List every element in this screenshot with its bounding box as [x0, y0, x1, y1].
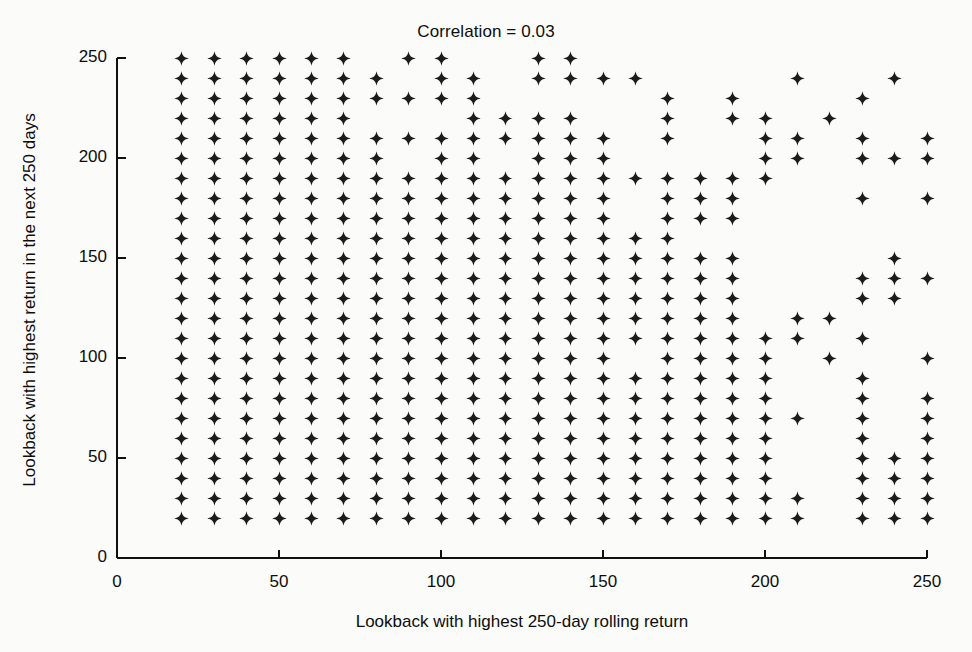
scatter-point — [272, 491, 287, 506]
scatter-point — [272, 451, 287, 466]
scatter-point — [693, 211, 708, 226]
scatter-point — [369, 71, 384, 86]
scatter-point — [401, 251, 416, 266]
scatter-point — [887, 511, 902, 526]
scatter-point — [596, 71, 611, 86]
scatter-point — [466, 331, 481, 346]
scatter-point — [401, 191, 416, 206]
scatter-point — [628, 431, 643, 446]
scatter-point — [239, 71, 254, 86]
scatter-point — [790, 331, 805, 346]
scatter-point — [304, 71, 319, 86]
scatter-point — [174, 511, 189, 526]
scatter-point — [758, 391, 773, 406]
scatter-point — [790, 71, 805, 86]
scatter-point — [272, 171, 287, 186]
scatter-point — [434, 171, 449, 186]
scatter-point — [207, 71, 222, 86]
scatter-point — [855, 431, 870, 446]
scatter-point — [563, 431, 578, 446]
scatter-point — [304, 471, 319, 486]
scatter-point — [434, 331, 449, 346]
y-tick-label: 100 — [59, 347, 107, 367]
scatter-point — [369, 131, 384, 146]
scatter-point — [401, 471, 416, 486]
scatter-point — [531, 291, 546, 306]
scatter-point — [660, 351, 675, 366]
scatter-point — [855, 331, 870, 346]
scatter-point — [239, 271, 254, 286]
scatter-point — [693, 371, 708, 386]
scatter-point — [174, 191, 189, 206]
scatter-point — [174, 491, 189, 506]
scatter-point — [563, 211, 578, 226]
scatter-point — [239, 351, 254, 366]
scatter-point — [304, 191, 319, 206]
scatter-point — [174, 151, 189, 166]
scatter-point — [174, 271, 189, 286]
y-tick-label: 250 — [59, 47, 107, 67]
scatter-point — [304, 151, 319, 166]
scatter-point — [596, 411, 611, 426]
scatter-point — [336, 451, 351, 466]
scatter-point — [887, 291, 902, 306]
scatter-point — [498, 471, 513, 486]
scatter-point — [531, 331, 546, 346]
scatter-point — [369, 371, 384, 386]
scatter-point — [596, 311, 611, 326]
scatter-point — [855, 291, 870, 306]
scatter-point — [466, 351, 481, 366]
scatter-point — [628, 171, 643, 186]
scatter-point — [336, 151, 351, 166]
scatter-point — [336, 471, 351, 486]
scatter-point — [174, 131, 189, 146]
scatter-point — [693, 511, 708, 526]
scatter-point — [596, 451, 611, 466]
scatter-point — [336, 271, 351, 286]
scatter-point — [855, 451, 870, 466]
scatter-point — [207, 151, 222, 166]
scatter-point — [596, 171, 611, 186]
scatter-point — [174, 211, 189, 226]
y-axis-label: Lookback with highest return in the next… — [20, 40, 40, 560]
scatter-point — [660, 331, 675, 346]
scatter-point — [596, 231, 611, 246]
scatter-point — [434, 511, 449, 526]
scatter-point — [401, 311, 416, 326]
scatter-point — [725, 431, 740, 446]
scatter-point — [174, 351, 189, 366]
scatter-point — [434, 371, 449, 386]
scatter-point — [207, 511, 222, 526]
scatter-point — [239, 131, 254, 146]
scatter-point — [887, 271, 902, 286]
scatter-point — [207, 171, 222, 186]
scatter-point — [401, 171, 416, 186]
scatter-point — [660, 131, 675, 146]
scatter-point — [207, 371, 222, 386]
scatter-point — [758, 171, 773, 186]
scatter-point — [660, 291, 675, 306]
scatter-point — [369, 91, 384, 106]
scatter-point — [174, 231, 189, 246]
scatter-point — [434, 211, 449, 226]
scatter-point — [304, 491, 319, 506]
y-tick-label: 200 — [59, 147, 107, 167]
scatter-point — [758, 331, 773, 346]
scatter-point — [693, 191, 708, 206]
scatter-point — [920, 391, 935, 406]
scatter-point — [466, 111, 481, 126]
scatter-point — [174, 371, 189, 386]
scatter-point — [336, 311, 351, 326]
scatter-point — [596, 251, 611, 266]
scatter-point — [660, 231, 675, 246]
scatter-point — [304, 271, 319, 286]
scatter-point — [563, 311, 578, 326]
scatter-point — [401, 351, 416, 366]
scatter-point — [174, 471, 189, 486]
scatter-point — [498, 231, 513, 246]
scatter-point — [887, 151, 902, 166]
scatter-point — [596, 291, 611, 306]
scatter-point — [531, 491, 546, 506]
scatter-point — [304, 91, 319, 106]
scatter-point — [790, 131, 805, 146]
